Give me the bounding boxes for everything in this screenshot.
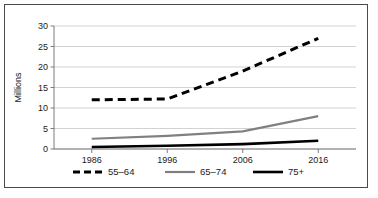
- chart-frame: 051015202530 1986199620062016 Millions 5…: [4, 4, 368, 188]
- series-line-55-64: [92, 38, 319, 100]
- legend-label-2: 65–74: [200, 166, 226, 177]
- series-line-65-74: [92, 116, 319, 139]
- chart-legend: 55–6465–7475+: [73, 166, 305, 177]
- y-tick-label: 5: [43, 124, 48, 134]
- x-tick-label: 2016: [308, 155, 328, 165]
- legend-label-3: 75+: [288, 166, 305, 177]
- y-tick-label: 10: [38, 103, 48, 113]
- x-tick-label: 1996: [157, 155, 177, 165]
- y-tick-label: 15: [38, 83, 48, 93]
- y-tick-label: 30: [38, 21, 48, 31]
- x-tick-label: 2006: [233, 155, 253, 165]
- legend-label-1: 55–64: [108, 166, 134, 177]
- line-chart: 051015202530 1986199620062016 Millions 5…: [5, 5, 367, 187]
- y-tick-label: 20: [38, 62, 48, 72]
- x-tick-label: 1986: [82, 155, 102, 165]
- y-tick-label: 25: [38, 42, 48, 52]
- gridlines-group: [54, 26, 356, 149]
- series-lines-group: [92, 38, 319, 147]
- y-axis-tick-labels: 051015202530: [38, 21, 48, 154]
- x-axis-tick-labels: 1986199620062016: [82, 155, 329, 165]
- series-line-75-: [92, 141, 319, 147]
- y-axis-title: Millions: [13, 72, 23, 103]
- y-tick-label: 0: [43, 144, 48, 154]
- y-axis-title-label: Millions: [13, 72, 23, 103]
